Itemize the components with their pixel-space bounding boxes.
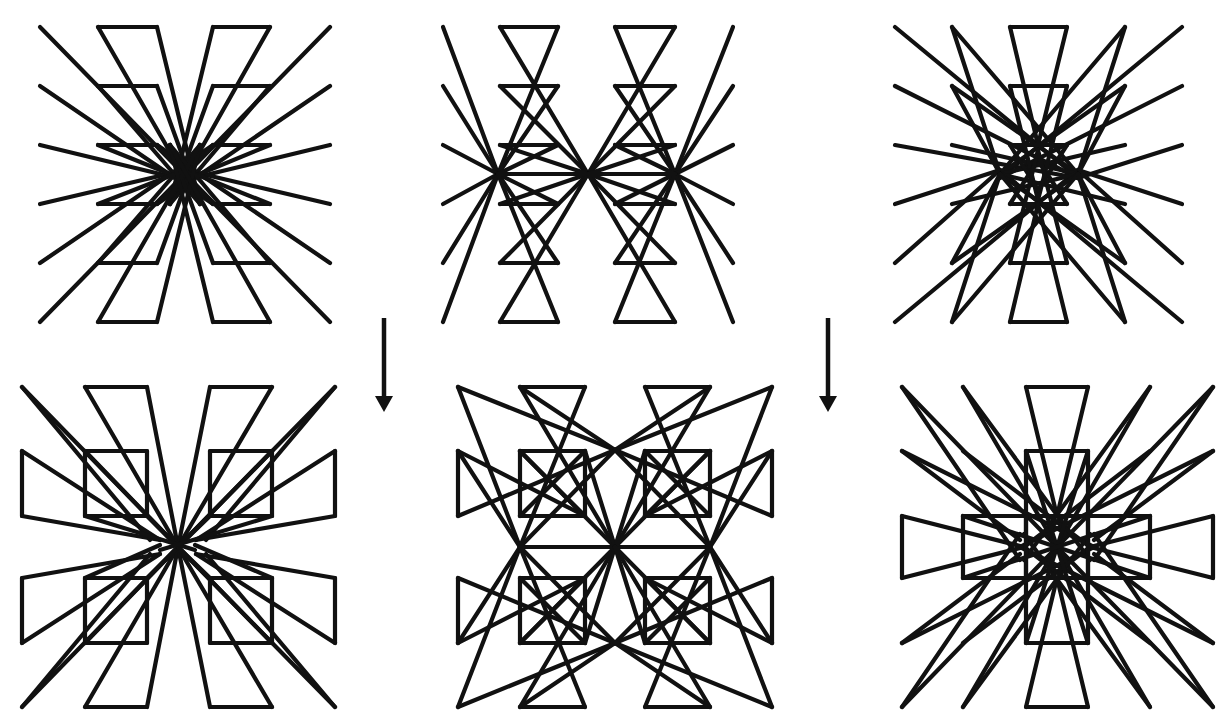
panel-top-left [40,27,330,322]
panel-top-middle [443,27,733,322]
panel-bottom-middle [458,387,772,707]
figure-canvas [0,0,1232,728]
pattern-line [1094,534,1213,707]
panel-bottom-left [22,387,335,707]
pattern-line [1094,387,1213,560]
panel-bottom-right [902,387,1213,707]
pattern-line [1078,170,1182,204]
down-arrow-icon [819,318,837,412]
panel-top-right [895,27,1182,322]
down-arrow-icon [375,318,393,412]
